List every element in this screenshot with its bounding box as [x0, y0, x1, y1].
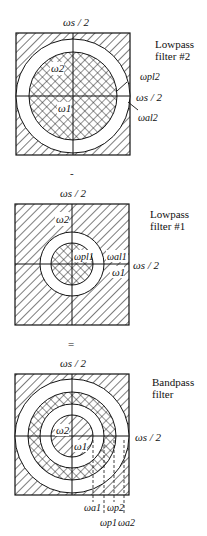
panel-title-line1: Lowpass: [150, 208, 189, 220]
panel-title-line2: filter: [152, 388, 174, 400]
wp1-label: ωp1: [100, 517, 117, 528]
right-axis-label: ωs / 2: [136, 91, 163, 103]
right-axis-label: ωs / 2: [133, 259, 160, 271]
top-axis-label: ωs / 2: [60, 357, 87, 369]
passband-edge-label: ωpl1: [74, 251, 94, 262]
w1-label: ω1: [74, 440, 87, 452]
stopband-edge-label: ωal2: [138, 112, 158, 123]
stopband-edge-label: ωal1: [107, 251, 127, 262]
wa1-label: ωa1: [84, 502, 101, 513]
panel-lowpass-2: [16, 33, 138, 155]
panel-title-line1: Bandpass: [152, 376, 194, 388]
top-axis-label: ωs / 2: [63, 16, 90, 28]
w2-label: ω2: [51, 62, 65, 74]
right-axis-label: ωs / 2: [135, 431, 162, 443]
top-axis-label: ωs / 2: [60, 187, 87, 199]
panel-bandpass: [15, 374, 129, 515]
passband-edge-label: ωpl2: [140, 71, 160, 82]
w1-label: ω1: [58, 102, 71, 114]
minus-operator: -: [70, 167, 74, 179]
w1-label: ω1: [112, 266, 125, 278]
wp2-label: ωp2: [107, 502, 124, 513]
panel-title-line1: Lowpass: [155, 38, 194, 50]
filter-diagram: ωs / 2 ωs / 2 ω2 ω1 ωpl2 ωal2 Lowpass fi…: [0, 0, 207, 536]
panel-title-line2: filter #2: [155, 50, 190, 62]
equals-operator: =: [68, 338, 74, 350]
panel-title-line2: filter #1: [150, 220, 185, 232]
w2-label: ω2: [56, 424, 70, 436]
wa2-label: ωa2: [118, 517, 135, 528]
panel-lowpass-1: [15, 204, 129, 325]
w2-label: ω2: [56, 213, 70, 225]
